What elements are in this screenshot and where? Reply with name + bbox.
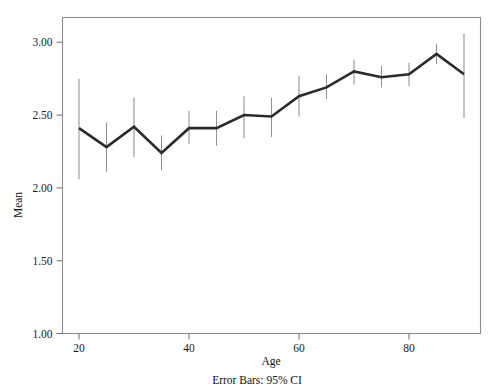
y-tick-label-2.00: 2.00	[32, 182, 52, 194]
mean-by-age-line-chart: 1.001.502.002.503.00 20406080 Mean Age E…	[0, 0, 497, 389]
x-tick-label-40: 40	[183, 342, 195, 354]
x-tick-label-20: 20	[73, 342, 85, 354]
x-axis-title: Age	[261, 355, 280, 368]
y-tick-label-3.00: 3.00	[32, 36, 52, 48]
x-tick-label-80: 80	[403, 342, 415, 354]
chart-page: 1.001.502.002.503.00 20406080 Mean Age E…	[0, 0, 497, 389]
error-bars-footnote: Error Bars: 95% CI	[212, 374, 302, 386]
y-axis-title: Mean	[12, 192, 24, 218]
chart-canvas: 1.001.502.002.503.00 20406080 Mean Age E…	[0, 0, 497, 389]
y-tick-label-1.00: 1.00	[32, 328, 52, 340]
x-tick-label-60: 60	[293, 342, 305, 354]
y-tick-label-2.50: 2.50	[32, 109, 52, 121]
chart-background	[0, 0, 497, 389]
y-tick-label-1.50: 1.50	[32, 255, 52, 267]
